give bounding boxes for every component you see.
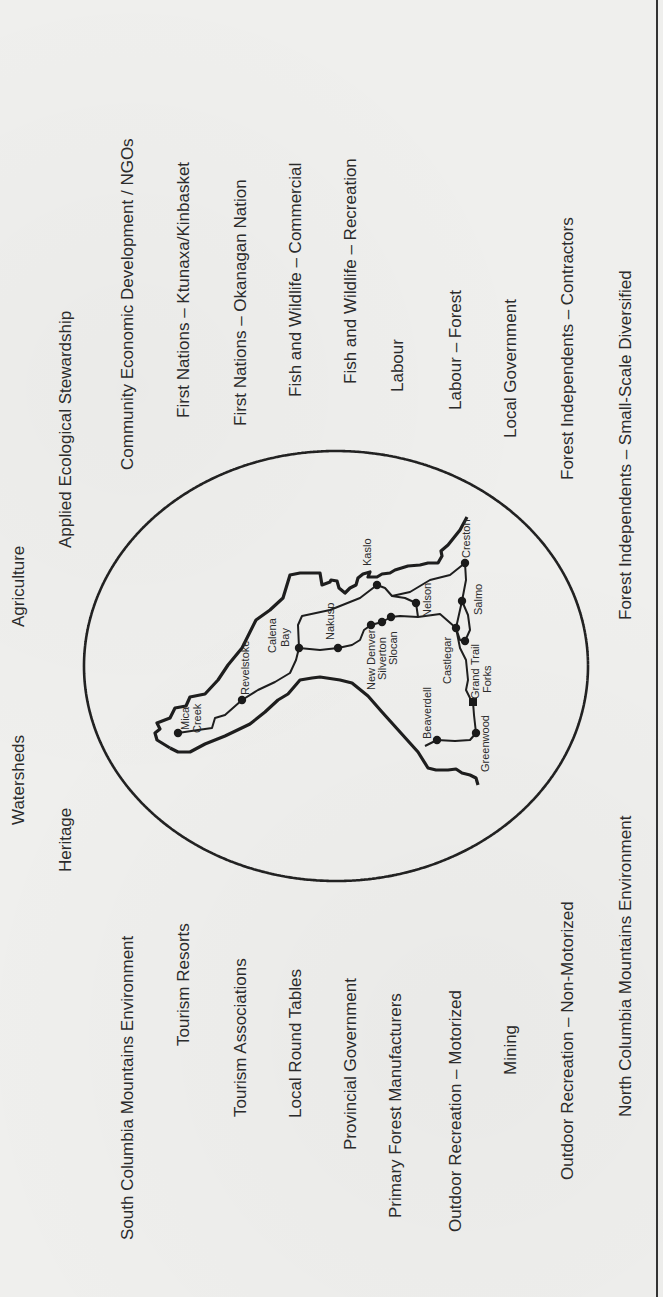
city-dot-creston — [461, 559, 469, 567]
city-label-calena: Calena — [266, 617, 278, 653]
city-label-trail: Trail — [469, 644, 481, 665]
city-label-forks: Forks — [481, 665, 493, 693]
city-dot-nelson — [412, 599, 420, 607]
city-dot-slocan — [387, 613, 395, 621]
city-label-kaslo: Kaslo — [361, 538, 373, 566]
city-dot-calena-bay — [295, 644, 303, 652]
right-border-rule — [656, 0, 658, 1297]
city-label-castlegar: Castlegar — [441, 637, 453, 684]
city-label-salmo: Salmo — [472, 584, 484, 615]
city-dot-nakusp — [334, 644, 342, 652]
city-label-mica: Mica — [179, 706, 191, 730]
city-label-greenwood: Greenwood — [479, 715, 491, 772]
dotted-boundary-ellipse — [84, 451, 588, 881]
city-dot-beaverdell — [433, 736, 441, 744]
city-label-bay: Bay — [279, 628, 291, 647]
city-label-nelson: Nelson — [421, 583, 433, 617]
city-dot-salmo — [458, 597, 466, 605]
city-dot-kaslo — [373, 581, 381, 589]
city-label-slocan: Slocan — [387, 631, 399, 665]
city-label-creston: Creston — [460, 519, 472, 558]
city-label-revelstoke: Revelstoke — [239, 641, 251, 695]
city-dot-silverton — [378, 618, 386, 626]
city-label-grand: Grand — [469, 668, 481, 699]
region-map: Mica Creek Revelstoke Calena Bay Nakusp … — [0, 0, 663, 1297]
city-label-nakusp: Nakusp — [324, 603, 336, 640]
city-dot-revelstoke — [238, 696, 246, 704]
city-label-beaverdell: Beaverdell — [421, 687, 433, 739]
city-dot-trail — [461, 637, 469, 645]
city-dot-castlegar — [452, 624, 460, 632]
city-dot-new-denver — [367, 621, 375, 629]
city-label-creek: Creek — [191, 703, 203, 733]
